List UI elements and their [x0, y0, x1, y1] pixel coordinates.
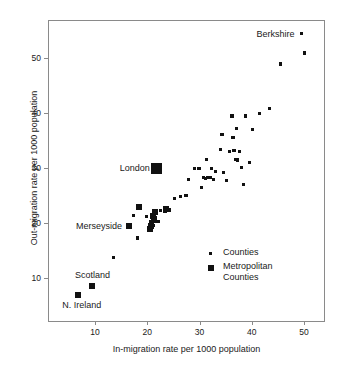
- data-point: [214, 170, 217, 173]
- point-label-n-ireland: N. Ireland: [62, 300, 101, 310]
- data-point: [136, 204, 142, 210]
- point-label-berkshire: Berkshire: [256, 29, 294, 39]
- data-point: [238, 150, 241, 153]
- data-point: [300, 32, 303, 35]
- x-tick-label: 40: [242, 327, 262, 337]
- data-point: [132, 214, 135, 217]
- legend-label-metropolitan-line2: Counties: [223, 272, 273, 283]
- data-point: [179, 195, 182, 198]
- data-point: [151, 163, 162, 174]
- data-point: [210, 167, 213, 170]
- chart-legend: Counties Metropolitan Counties: [208, 247, 273, 285]
- x-tick-mark: [252, 321, 253, 325]
- point-label-london: London: [120, 163, 150, 173]
- data-point: [236, 158, 239, 161]
- x-tick-label: 10: [85, 327, 105, 337]
- data-point: [230, 114, 233, 117]
- data-point: [268, 107, 271, 110]
- data-point: [152, 209, 158, 215]
- scatter-plot-figure: 1020304050 1020304050 BerkshireLondonMer…: [0, 0, 338, 366]
- data-point: [242, 183, 245, 186]
- x-tick-mark: [95, 321, 96, 325]
- legend-swatch-medium-square-icon: [208, 265, 214, 271]
- data-point: [173, 197, 176, 200]
- point-label-merseyside: Merseyside: [76, 221, 122, 231]
- data-point: [225, 179, 228, 182]
- data-point: [184, 194, 187, 197]
- y-tick-mark: [44, 58, 48, 59]
- data-point: [235, 127, 238, 130]
- data-point: [200, 186, 203, 189]
- data-point: [148, 223, 154, 229]
- data-point: [197, 167, 200, 170]
- data-point: [212, 178, 215, 181]
- data-point: [232, 149, 235, 152]
- x-tick-label: 20: [137, 327, 157, 337]
- data-point: [193, 167, 196, 170]
- data-point: [205, 158, 208, 161]
- x-tick-label: 30: [190, 327, 210, 337]
- y-tick-mark: [44, 278, 48, 279]
- y-axis-label: Out-migration rate per 1000 population: [29, 48, 39, 288]
- data-point: [222, 171, 225, 174]
- data-point: [168, 208, 171, 211]
- data-point: [220, 133, 223, 136]
- data-point: [89, 283, 95, 289]
- data-point: [228, 150, 231, 153]
- data-point: [126, 223, 132, 229]
- point-label-scotland: Scotland: [75, 270, 110, 280]
- data-point: [251, 128, 254, 131]
- data-point: [75, 292, 81, 298]
- data-point: [112, 256, 115, 259]
- data-point: [240, 166, 243, 169]
- data-point: [219, 148, 222, 151]
- legend-swatch-small-square-icon: [209, 252, 212, 255]
- legend-label-metropolitan: Metropolitan: [223, 261, 273, 272]
- x-axis-label: In-migration rate per 1000 population: [48, 344, 325, 354]
- data-point: [303, 51, 306, 54]
- data-point: [151, 217, 157, 223]
- x-tick-mark: [200, 321, 201, 325]
- x-tick-mark: [147, 321, 148, 325]
- data-point: [157, 220, 160, 223]
- x-tick-mark: [304, 321, 305, 325]
- legend-label-counties: Counties: [223, 247, 273, 258]
- legend-item-metropolitan-counties: Metropolitan Counties: [208, 261, 273, 283]
- data-point: [231, 136, 234, 139]
- x-tick-label: 50: [294, 327, 314, 337]
- data-point: [244, 114, 247, 117]
- data-point: [279, 62, 282, 65]
- data-point: [187, 178, 190, 181]
- data-point: [258, 112, 261, 115]
- data-point: [248, 161, 251, 164]
- y-tick-mark: [44, 168, 48, 169]
- data-point: [163, 206, 169, 212]
- y-tick-mark: [44, 113, 48, 114]
- y-tick-mark: [44, 223, 48, 224]
- legend-item-counties: Counties: [208, 247, 273, 259]
- data-point: [145, 215, 148, 218]
- data-point: [136, 236, 139, 239]
